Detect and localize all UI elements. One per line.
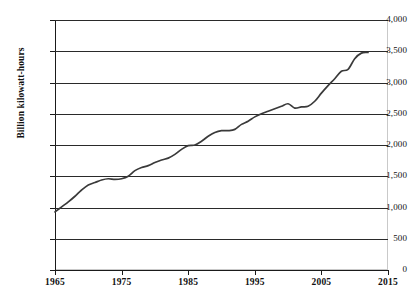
x-tick-2015 xyxy=(388,270,389,275)
y-tick-1500 xyxy=(50,176,55,177)
y-tick-500 xyxy=(50,239,55,240)
x-tick-label-1985: 1985 xyxy=(168,277,208,288)
y-tick-4000 xyxy=(50,20,55,21)
gridline-3500 xyxy=(55,51,388,52)
gridline-2000 xyxy=(55,145,388,146)
y-tick-label-1500: 1,500 xyxy=(361,171,407,180)
y-tick-label-500: 500 xyxy=(361,234,407,243)
x-tick-2005 xyxy=(321,270,322,275)
x-tick-1965 xyxy=(55,270,56,275)
y-tick-label-2500: 2,500 xyxy=(361,109,407,118)
y-tick-label-3000: 3,000 xyxy=(361,78,407,87)
y-tick-label-3500: 3,500 xyxy=(361,46,407,55)
gridline-4000 xyxy=(55,20,388,21)
y-tick-3000 xyxy=(50,83,55,84)
x-tick-label-1975: 1975 xyxy=(102,277,142,288)
y-tick-1000 xyxy=(50,208,55,209)
gridline-2500 xyxy=(55,114,388,115)
y-axis-title: Billion kilowatt-hours xyxy=(16,18,26,168)
y-tick-label-4000: 4,000 xyxy=(361,15,407,24)
x-tick-label-2015: 2015 xyxy=(368,277,408,288)
gridline-500 xyxy=(55,239,388,240)
x-tick-label-1965: 1965 xyxy=(35,277,75,288)
y-tick-2000 xyxy=(50,145,55,146)
gridline-3000 xyxy=(55,83,388,84)
x-tick-1995 xyxy=(255,270,256,275)
x-tick-1985 xyxy=(188,270,189,275)
y-tick-label-2000: 2,000 xyxy=(361,140,407,149)
x-tick-label-1995: 1995 xyxy=(235,277,275,288)
gridline-1500 xyxy=(55,176,388,177)
y-tick-3500 xyxy=(50,51,55,52)
x-tick-1975 xyxy=(122,270,123,275)
y-tick-2500 xyxy=(50,114,55,115)
gridline-1000 xyxy=(55,208,388,209)
x-tick-label-2005: 2005 xyxy=(301,277,341,288)
y-tick-label-1000: 1,000 xyxy=(361,203,407,212)
gridline-0 xyxy=(55,270,388,271)
y-tick-label-0: 0 xyxy=(361,265,407,274)
